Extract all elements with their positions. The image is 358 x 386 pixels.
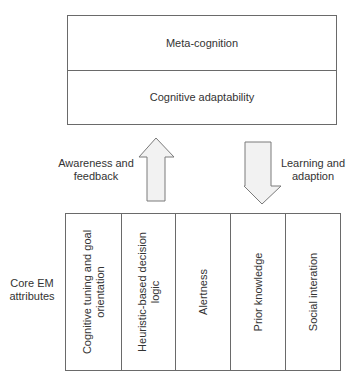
learning-line2: adaption [278,170,348,183]
attribute-label: Prior knowledge [252,217,265,367]
attribute-column-alertness: Alertness [176,214,231,370]
awareness-line1: Awareness and [54,157,138,170]
attribute-line2: orientation [94,217,107,367]
attribute-line1: Cognitive tuning and goal [81,217,94,367]
attribute-label: Heuristic-based decision logic [136,217,162,367]
awareness-line2: feedback [54,170,138,183]
learning-adaption-label: Learning and adaption [278,157,348,183]
core-line2: attributes [4,290,60,303]
awareness-feedback-label: Awareness and feedback [54,157,138,183]
down-arrow-icon [244,142,281,204]
attribute-line1: Prior knowledge [252,217,265,367]
attribute-column-social-interation: Social interation [286,214,340,370]
up-arrow-icon [139,138,174,201]
attribute-column-prior-knowledge: Prior knowledge [231,214,286,370]
attribute-line1: Social interation [307,217,320,367]
attribute-label: Social interation [307,217,320,367]
attribute-column-cognitive-tuning: Cognitive tuning and goal orientation [66,214,122,370]
attribute-line2: logic [149,217,162,367]
core-attributes-box: Cognitive tuning and goal orientation He… [65,213,341,371]
core-em-attributes-label: Core EM attributes [4,277,60,303]
attribute-line1: Heuristic-based decision [136,217,149,367]
attribute-column-heuristic: Heuristic-based decision logic [122,214,176,370]
attribute-line1: Alertness [197,217,210,367]
attribute-label: Alertness [197,217,210,367]
core-line1: Core EM [4,277,60,290]
attribute-label: Cognitive tuning and goal orientation [81,217,107,367]
learning-line1: Learning and [278,157,348,170]
